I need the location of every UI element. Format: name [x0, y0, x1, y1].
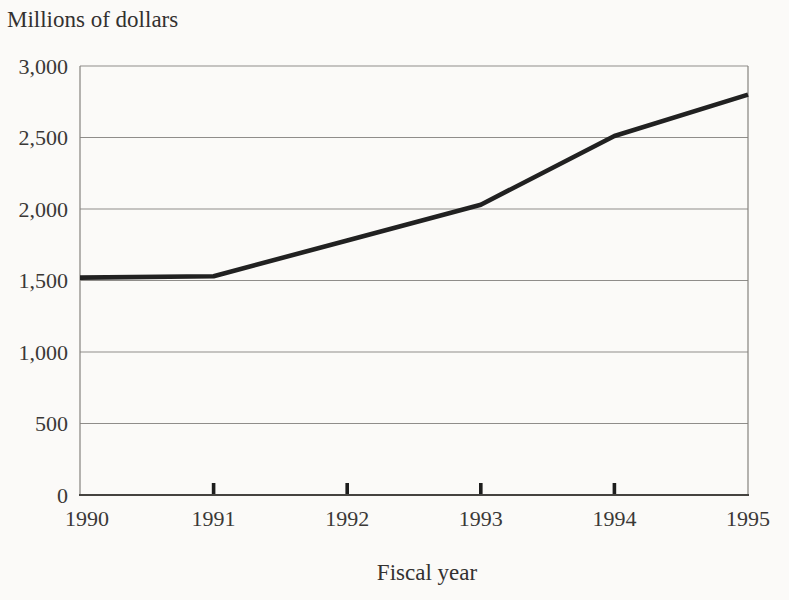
y-tick-label: 0 [57, 483, 68, 508]
x-tick-mark [613, 483, 617, 494]
x-tick-mark [479, 483, 483, 494]
y-axis-unit-label: Millions of dollars [7, 7, 178, 32]
x-axis-tick-labels: 199019911992199319941995 [65, 506, 770, 531]
x-axis-tick-marks [212, 483, 616, 494]
x-tick-label: 1991 [192, 506, 236, 531]
y-axis-tick-labels: 05001,0001,5002,0002,5003,000 [19, 54, 69, 508]
y-tick-label: 1,500 [19, 268, 69, 293]
x-tick-label: 1990 [65, 506, 109, 531]
y-tick-label: 2,500 [19, 125, 69, 150]
x-tick-mark [212, 483, 216, 494]
x-tick-label: 1994 [592, 506, 636, 531]
y-tick-label: 2,000 [19, 197, 69, 222]
x-tick-label: 1993 [459, 506, 503, 531]
x-tick-label: 1995 [726, 506, 770, 531]
scanned-chart-page: Millions of dollars 05001,0001,5002,0002… [0, 0, 789, 600]
y-tick-label: 500 [35, 411, 68, 436]
x-tick-mark [345, 483, 349, 494]
gridlines [80, 66, 748, 424]
y-tick-label: 3,000 [19, 54, 69, 79]
line-chart: Millions of dollars 05001,0001,5002,0002… [0, 0, 789, 600]
data-polyline [80, 95, 748, 278]
y-tick-label: 1,000 [19, 340, 69, 365]
data-series-line [80, 95, 748, 278]
x-tick-label: 1992 [325, 506, 369, 531]
x-axis-title: Fiscal year [377, 560, 478, 585]
